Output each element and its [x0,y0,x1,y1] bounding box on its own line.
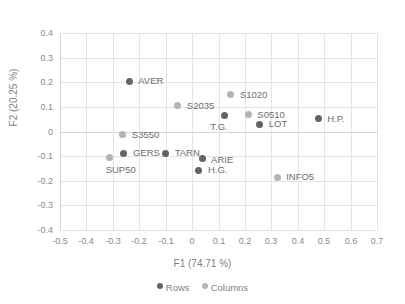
data-point-label: INFO5 [286,172,314,182]
data-point-label: S2035 [187,101,214,111]
data-point-label: ARIE [211,155,233,165]
data-point-label: TARN [175,148,200,158]
y-axis-title: F2 (20.25 %) [8,38,19,158]
x-tick-label: 0 [177,236,207,246]
data-point[interactable] [199,155,206,162]
data-point[interactable] [274,174,281,181]
y-tick-label: 0.2 [21,77,53,87]
y-gridline [60,107,377,108]
scatter-chart: AVERT.G.LOTH.P.GERSTARNARIEH.G.S1020S203… [0,0,405,304]
legend-marker-icon [157,283,163,289]
x-tick-label: 0.5 [309,236,339,246]
y-tick-label: -0.1 [21,151,53,161]
y-tick-label: 0 [21,127,53,137]
y-gridline [60,33,377,34]
data-point[interactable] [221,112,228,119]
legend-label: Rows [166,282,190,293]
y-tick-label: 0.3 [21,53,53,63]
y-axis-line [60,33,61,230]
data-point[interactable] [162,150,169,157]
data-point-label: T.G. [210,122,227,132]
data-point-label: S1020 [240,90,267,100]
data-point-label: LOT [269,119,287,129]
data-point-label: GERS [133,148,160,158]
x-tick-label: 0.7 [362,236,392,246]
data-point[interactable] [227,91,234,98]
y-tick-label: -0.3 [21,200,53,210]
x-tick-label: -0.4 [71,236,101,246]
y-tick-label: 0.4 [21,28,53,38]
y-tick-label: -0.2 [21,176,53,186]
data-point-label: S3550 [132,130,159,140]
data-point[interactable] [195,167,202,174]
data-point-label: AVER [138,76,163,86]
legend-label: Columns [211,282,249,293]
y-tick-label: 0.1 [21,102,53,112]
data-point[interactable] [174,102,181,109]
data-point[interactable] [245,111,252,118]
y-gridline [60,181,377,182]
y-tick-label: -0.4 [21,225,53,235]
y-gridline [60,230,377,231]
data-point[interactable] [315,115,322,122]
data-point[interactable] [256,121,263,128]
data-point-label: H.P. [327,114,344,124]
legend-item-columns[interactable]: Columns [202,281,249,293]
chart-legend: RowsColumns [0,281,405,293]
x-gridline [377,33,378,230]
data-point[interactable] [119,131,126,138]
data-point-label: SUP50 [106,165,136,175]
legend-item-rows[interactable]: Rows [157,281,190,293]
data-point[interactable] [126,78,133,85]
legend-marker-icon [202,283,208,289]
x-tick-label: -0.2 [124,236,154,246]
plot-area: AVERT.G.LOTH.P.GERSTARNARIEH.G.S1020S203… [60,33,377,230]
data-point[interactable] [106,154,113,161]
data-point-label: S0510 [257,110,284,120]
data-point-label: H.G. [208,165,228,175]
y-gridline [60,205,377,206]
x-axis-title: F1 (74.71 %) [0,258,405,269]
x-tick-label: 0.3 [256,236,286,246]
y-gridline [60,82,377,83]
y-gridline [60,58,377,59]
